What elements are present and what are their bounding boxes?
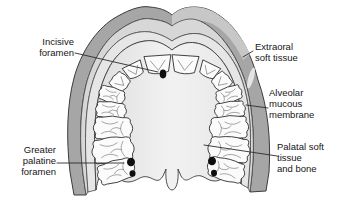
alveolar-mucous-membrane-label: Alveolar mucous membrane: [269, 87, 314, 120]
incisive-foramen-label: Incisive foramen: [14, 36, 74, 58]
incisive-foramen-dot: [160, 70, 167, 79]
palatal-soft-tissue-label: Palatal soft tissue and bone: [277, 141, 324, 174]
tooth-ur-central-incisor: [171, 55, 199, 75]
lesser-palatine-foramen-dot-left: [130, 170, 136, 177]
palate-diagram: Incisive foramen Extraoral soft tissue A…: [0, 0, 340, 207]
greater-palatine-foramen-dot-right: [208, 157, 216, 166]
extraoral-soft-tissue-label: Extraoral soft tissue: [255, 41, 298, 63]
lesser-palatine-foramen-dot-right: [211, 170, 217, 177]
greater-palatine-foramen-label: Greater palatine foramen: [6, 144, 56, 177]
greater-palatine-foramen-dot-left: [127, 158, 135, 167]
